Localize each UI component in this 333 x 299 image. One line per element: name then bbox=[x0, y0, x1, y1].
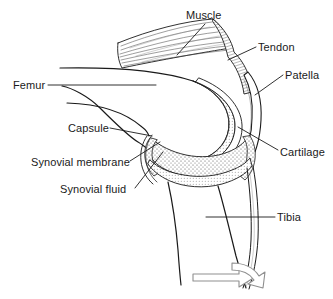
label-muscle: Muscle bbox=[186, 9, 221, 21]
muscle-structure bbox=[118, 19, 231, 68]
label-capsule: Capsule bbox=[68, 122, 109, 134]
label-synovial-fluid: Synovial fluid bbox=[60, 183, 126, 195]
label-tendon: Tendon bbox=[258, 41, 295, 53]
knee-joint-diagram: Muscle Tendon Patella Femur Capsule Cart… bbox=[0, 0, 333, 299]
label-synovial-membrane: Synovial membrane bbox=[31, 156, 130, 168]
label-cartilage: Cartilage bbox=[280, 146, 325, 158]
label-femur: Femur bbox=[13, 79, 45, 91]
leader-patella bbox=[255, 75, 283, 95]
tendon-structure bbox=[213, 19, 252, 94]
label-tibia: Tibia bbox=[277, 211, 301, 223]
label-patella: Patella bbox=[285, 69, 319, 81]
